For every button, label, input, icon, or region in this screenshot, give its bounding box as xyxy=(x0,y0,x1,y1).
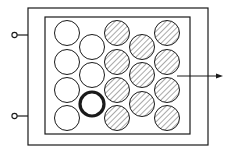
connection-pins xyxy=(12,32,28,118)
hatched-particle xyxy=(155,50,180,75)
output-arrow xyxy=(177,74,223,79)
hatched-particle xyxy=(105,21,130,46)
particle-grid xyxy=(55,21,180,131)
empty-particle xyxy=(55,106,80,131)
hatched-particle xyxy=(130,92,155,117)
empty-particle xyxy=(80,35,105,60)
hatched-particle xyxy=(155,21,180,46)
hatched-particle xyxy=(155,78,180,103)
empty-particle xyxy=(55,50,80,75)
pin-terminal xyxy=(12,32,28,37)
arrow-head-icon xyxy=(216,74,223,79)
hatched-particle xyxy=(155,106,180,131)
hatched-particle xyxy=(130,35,155,60)
hatched-particle xyxy=(105,106,130,131)
empty-particle xyxy=(55,21,80,46)
empty-particle xyxy=(55,78,80,103)
highlighted-particle xyxy=(80,92,104,116)
empty-particle xyxy=(80,63,105,88)
hatched-particle xyxy=(105,78,130,103)
hatched-particle xyxy=(105,50,130,75)
pin-terminal xyxy=(12,113,28,118)
hatched-particle xyxy=(130,63,155,88)
diagram-canvas xyxy=(0,0,232,153)
